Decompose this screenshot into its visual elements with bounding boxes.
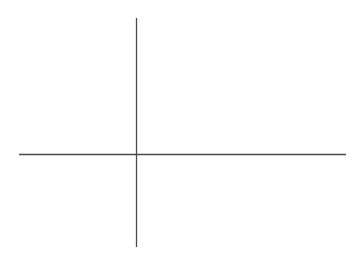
page-canvas [0, 0, 362, 272]
coordinate-axes [0, 0, 362, 272]
